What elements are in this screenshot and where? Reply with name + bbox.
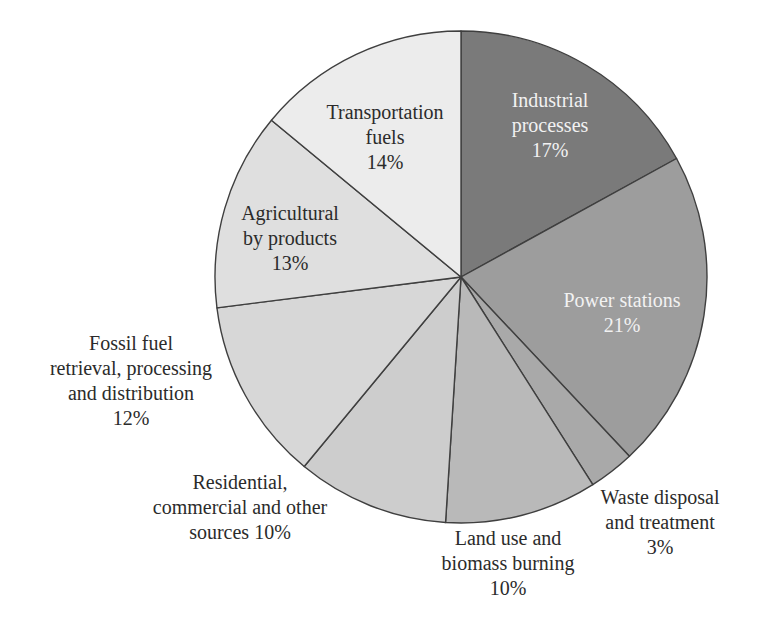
pie-label-residential-commercial-and-other-sources: Residential,commercial and othersources …	[153, 471, 328, 543]
pie-slices-layer	[215, 31, 707, 523]
pie-label-fossil-fuel-retrieval-processing-and-distribution: Fossil fuelretrieval, processingand dist…	[50, 332, 212, 429]
pie-label-waste-disposal-and-treatment: Waste disposaland treatment3%	[601, 486, 720, 558]
figure-container: Industrialprocesses17%Power stations21%W…	[0, 0, 776, 627]
pie-label-land-use-and-biomass-burning: Land use andbiomass burning10%	[442, 527, 575, 599]
pie-chart: Industrialprocesses17%Power stations21%W…	[0, 0, 776, 627]
